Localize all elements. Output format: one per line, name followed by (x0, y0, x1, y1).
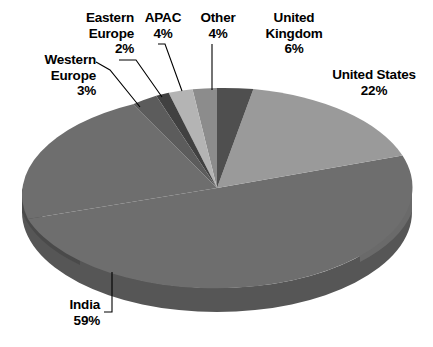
leader-line-apac (158, 44, 182, 91)
slice-label-eastern-europe: Eastern Europe 2% (48, 10, 134, 57)
pie-chart: Eastern Europe 2% APAC 4% Other 4% Unite… (0, 0, 433, 347)
slice-label-united-states: United States 22% (318, 67, 430, 98)
slice-label-india: India 59% (38, 297, 100, 328)
leader-line-western-europe (96, 62, 140, 107)
slice-label-apac: APAC 4% (138, 10, 188, 41)
slice-label-western-europe: Western Europe 3% (4, 52, 96, 99)
slice-label-united-kingdom: United Kingdom 6% (250, 10, 338, 57)
leader-line-eastern-europe (119, 60, 162, 97)
slice-label-other: Other 4% (192, 10, 244, 41)
